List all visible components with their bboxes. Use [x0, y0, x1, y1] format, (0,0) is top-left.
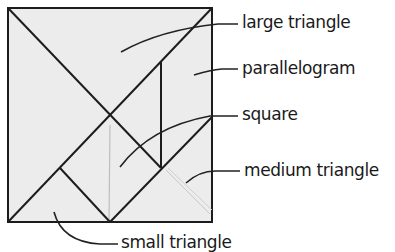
- label-square: square: [242, 106, 298, 123]
- tangram-diagram: [0, 0, 395, 252]
- label-parallelogram: parallelogram: [242, 60, 355, 77]
- label-large-triangle: large triangle: [242, 14, 350, 31]
- label-medium-triangle: medium triangle: [244, 162, 379, 179]
- label-small-triangle: small triangle: [121, 234, 232, 251]
